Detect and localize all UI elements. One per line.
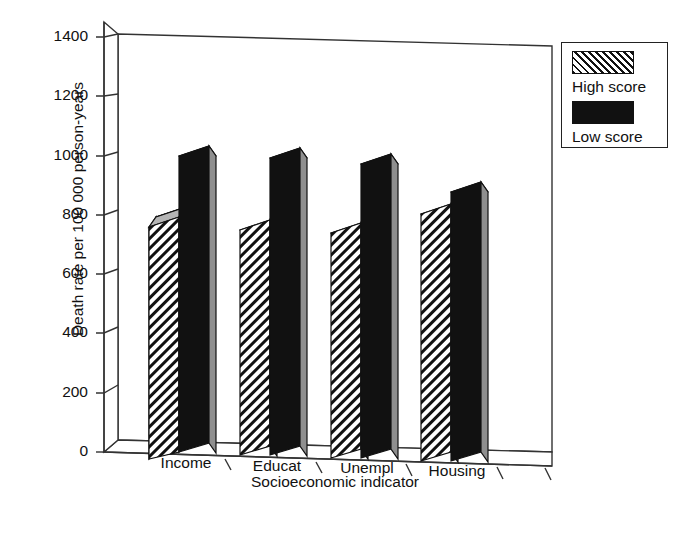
chart-legend: High score Low score	[561, 42, 668, 148]
x-tick-label-educat: Educat	[231, 458, 323, 474]
bar-educat-low-score	[270, 148, 307, 456]
y-tick-label: 0	[22, 443, 88, 459]
y-axis-title: Death rate per 100 000 person-years	[69, 59, 87, 359]
bar-group-housing	[421, 182, 488, 462]
legend-label-low-score: Low score	[572, 129, 643, 145]
y-tick-label: 1400	[22, 28, 88, 44]
legend-entry-low-score	[572, 101, 634, 124]
bar-income-low-score	[179, 146, 216, 453]
bar-unempl-low-score	[361, 154, 398, 459]
legend-label-high-score: High score	[572, 79, 646, 95]
hatched-swatch-icon	[572, 51, 634, 74]
x-axis-title: Socioeconomic indicator	[120, 473, 550, 491]
chart-canvas: 1400 1200 1000 800 600 400 200 0 Income …	[0, 0, 695, 543]
bar-housing-low-score	[451, 182, 488, 462]
solid-black-swatch-icon	[572, 101, 634, 124]
y-tick-label: 200	[22, 384, 88, 400]
legend-entry-high-score	[572, 51, 634, 74]
x-tick-label-income: Income	[140, 455, 232, 471]
